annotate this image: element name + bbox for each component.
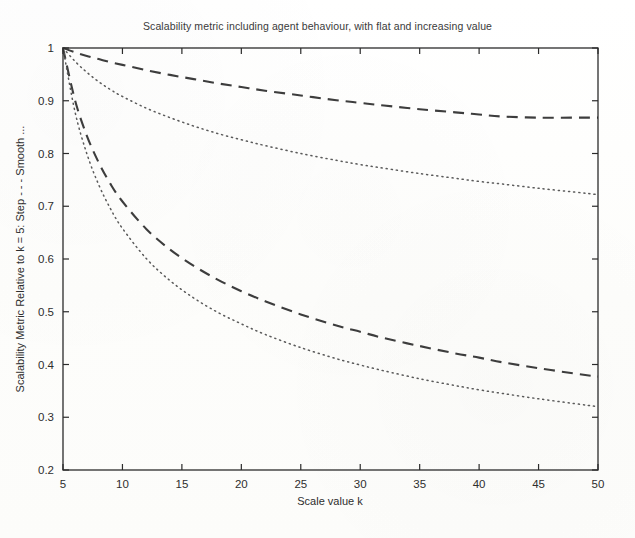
y-tick-label: 0.9 xyxy=(38,95,54,107)
y-tick-label: 0.3 xyxy=(38,411,54,423)
x-tick-label: 20 xyxy=(235,478,248,490)
x-tick-label: 35 xyxy=(413,478,426,490)
x-tick-label: 50 xyxy=(592,478,605,490)
x-tick-label: 15 xyxy=(175,478,188,490)
y-tick-label: 0.6 xyxy=(38,253,54,265)
plot-frame xyxy=(63,48,598,470)
x-tick-label: 25 xyxy=(294,478,307,490)
data-series-2 xyxy=(63,48,598,377)
x-axis-ticks: 5101520253035404550 xyxy=(60,48,605,490)
y-tick-label: 0.4 xyxy=(38,359,55,371)
y-tick-label: 0.8 xyxy=(38,148,54,160)
chart-figure: Scalability metric including agent behav… xyxy=(0,0,635,538)
y-tick-label: 0.5 xyxy=(38,306,54,318)
data-curves xyxy=(63,48,598,407)
y-axis-ticks: 0.20.30.40.50.60.70.80.91 xyxy=(38,42,598,476)
data-series-1 xyxy=(63,48,598,195)
y-tick-label: 0.7 xyxy=(38,200,54,212)
x-tick-label: 10 xyxy=(116,478,129,490)
x-tick-label: 40 xyxy=(473,478,486,490)
y-tick-label: 0.2 xyxy=(38,464,54,476)
x-tick-label: 30 xyxy=(354,478,367,490)
x-tick-label: 5 xyxy=(60,478,66,490)
x-tick-label: 45 xyxy=(532,478,545,490)
x-axis-label: Scale value k xyxy=(297,495,363,507)
y-tick-label: 1 xyxy=(48,42,54,54)
y-axis-label: Scalability Metric Relative to k = 5: St… xyxy=(14,126,26,393)
data-series-0 xyxy=(63,48,598,118)
plot-area: 0.20.30.40.50.60.70.80.91 51015202530354… xyxy=(0,0,635,538)
